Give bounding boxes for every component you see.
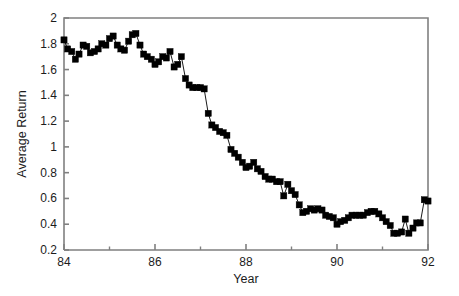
y-tick-label: 0.8 [40,166,57,180]
data-point-marker [178,54,184,60]
x-tick-label: 88 [239,255,253,269]
y-tick-label: 1.2 [40,114,57,128]
data-point-marker [205,110,211,116]
data-point-marker [61,37,67,43]
data-point-marker [175,61,181,67]
data-point-marker [399,229,405,235]
data-point-marker [277,179,283,185]
data-point-marker [126,38,132,44]
x-axis-title: Year [233,272,258,286]
data-point-marker [163,55,169,61]
data-point-marker [402,216,408,222]
data-point-marker [69,48,75,54]
data-point-marker [425,198,431,204]
x-tick-label: 86 [148,255,162,269]
x-tick-label: 84 [57,255,71,269]
data-point-marker [224,132,230,138]
x-tick-label: 92 [421,255,435,269]
data-point-marker [137,42,143,48]
y-tick-label: 1.6 [40,63,57,77]
x-tick-label: 90 [330,255,344,269]
data-point-marker [330,215,336,221]
data-point-marker [285,181,291,187]
chart-figure: 0.20.40.60.811.21.41.61.82 8486889092 Av… [0,0,459,296]
data-point-marker [103,42,109,48]
y-axis-title: Average Return [15,90,29,177]
data-point-marker [201,86,207,92]
y-tick-label: 1.8 [40,37,57,51]
y-tick-label: 1 [50,140,57,154]
y-tick-label: 1.4 [40,88,57,102]
line-chart: 0.20.40.60.811.21.41.61.82 8486889092 Av… [0,0,459,296]
y-tick-label: 2 [50,11,57,25]
data-point-marker [387,222,393,228]
data-point-marker [84,43,90,49]
data-point-marker [76,51,82,57]
data-point-marker [121,47,127,53]
y-tick-label: 0.4 [40,217,57,231]
data-point-marker [167,48,173,54]
data-point-marker [417,220,423,226]
y-tick-label: 0.6 [40,191,57,205]
data-point-marker [133,30,139,36]
data-point-marker [110,33,116,39]
data-point-marker [182,75,188,81]
data-point-marker [292,191,298,197]
y-tick-label: 0.2 [40,243,57,257]
data-point-marker [296,202,302,208]
data-point-marker [281,193,287,199]
data-point-marker [251,159,257,165]
